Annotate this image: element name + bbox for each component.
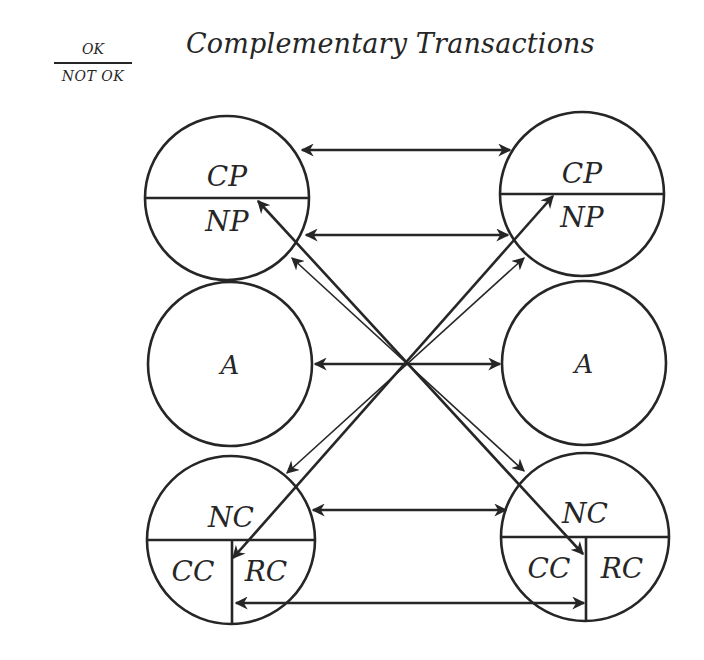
ego-label-np: NP [204, 205, 250, 238]
left-parent-ego-state: CPNP [145, 116, 309, 280]
ego-label-nc: NC [561, 497, 608, 530]
ego-label-rc: RC [600, 552, 644, 585]
left-adult-ego-state: A [148, 282, 312, 446]
right-child-ego-state: NCCCRC [501, 453, 669, 621]
ego-label-rc: RC [244, 555, 288, 588]
ego-label-cp: CP [207, 160, 248, 193]
left-child-ego-state: NCCCRC [147, 456, 315, 624]
arrow-thin-right-up-left-down [287, 258, 524, 473]
ego-label-cp: CP [562, 157, 603, 190]
transaction-arrows [233, 150, 584, 603]
ego-label-cc: CC [172, 555, 215, 588]
ego-label-np: NP [559, 201, 605, 234]
ego-label-cc: CC [528, 552, 571, 585]
ego-label-a: A [573, 349, 594, 379]
ego-state-circles: CPNPANCCCRCCPNPANCCCRC [145, 112, 669, 624]
right-adult-ego-state: A [502, 281, 666, 445]
ego-state-diagram: CPNPANCCCRCCPNPANCCCRC [0, 0, 704, 660]
right-parent-ego-state: CPNP [500, 112, 664, 276]
ego-label-nc: NC [207, 501, 254, 534]
ego-label-a: A [219, 350, 240, 380]
